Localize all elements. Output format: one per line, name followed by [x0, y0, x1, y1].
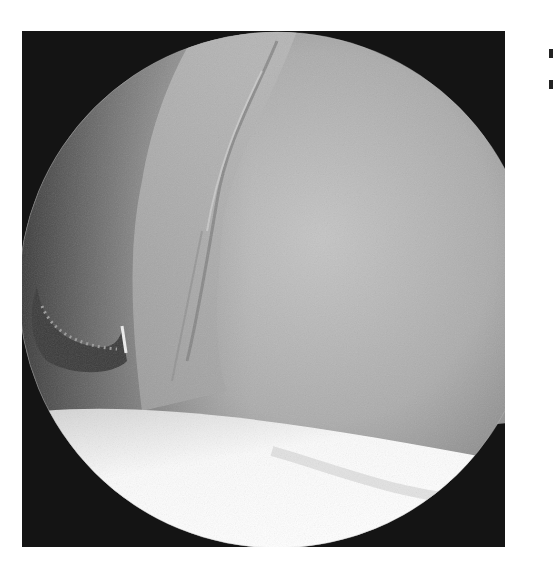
- arthroscopic-view: [22, 31, 505, 547]
- edge-mark-top: [549, 49, 553, 58]
- edge-mark-bottom: [549, 80, 553, 89]
- arthroscopy-image-frame: [22, 31, 505, 547]
